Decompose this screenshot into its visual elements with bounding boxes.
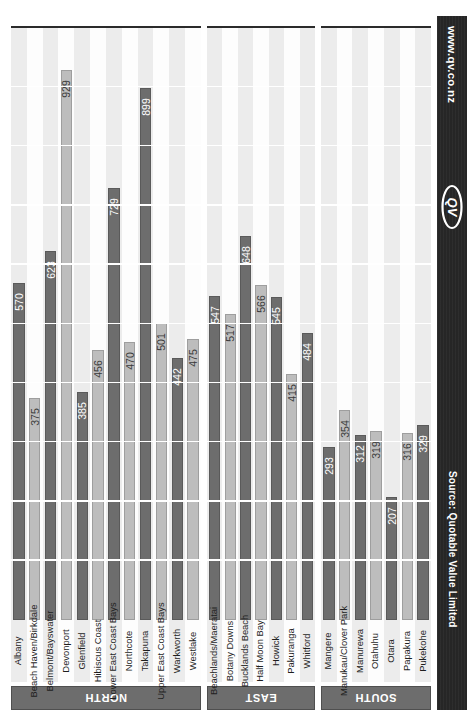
category-label-cell: Lower East Coast Bays bbox=[106, 620, 122, 682]
category-labels-north: AlbanyBeach Haven/BirkdaleBelmont/Bayswa… bbox=[11, 620, 201, 682]
bar[interactable]: 319 bbox=[370, 431, 381, 620]
category-label-cell: Botany Downs bbox=[222, 620, 237, 682]
bar-cell[interactable]: 415 bbox=[284, 28, 299, 620]
category-label: Manurewa bbox=[355, 629, 365, 673]
bar[interactable]: 729 bbox=[108, 188, 119, 620]
bar-value-label: 623 bbox=[45, 261, 57, 279]
category-label-cell: Papakura bbox=[400, 620, 416, 682]
bar-cell[interactable]: 517 bbox=[222, 28, 237, 620]
bar-cell[interactable]: 375 bbox=[27, 28, 43, 620]
category-label: Beachlands/Maeratai bbox=[209, 607, 219, 695]
chart-panel-east: 547517648566545415484 Beachlands/Maerata… bbox=[207, 26, 315, 710]
chart-panel-south: 293354312319207316329 MangereManukau/Clo… bbox=[321, 26, 431, 710]
bar-cell[interactable]: 484 bbox=[300, 28, 315, 620]
bar[interactable]: 442 bbox=[172, 358, 183, 620]
bar-value-label: 648 bbox=[240, 247, 252, 265]
bar-value-label: 293 bbox=[323, 457, 335, 475]
bar[interactable]: 470 bbox=[124, 342, 135, 620]
bar-cell[interactable]: 545 bbox=[269, 28, 284, 620]
bar-cell[interactable]: 316 bbox=[400, 28, 416, 620]
bar-cell[interactable]: 623 bbox=[43, 28, 59, 620]
category-label-cell: Warkworth bbox=[169, 620, 185, 682]
bar[interactable]: 415 bbox=[286, 374, 297, 620]
bar-cell[interactable]: 385 bbox=[74, 28, 90, 620]
category-label: Albany bbox=[13, 637, 23, 666]
bar-cell[interactable]: 547 bbox=[207, 28, 222, 620]
bar-cell[interactable]: 566 bbox=[253, 28, 268, 620]
bar-cell[interactable]: 329 bbox=[415, 28, 431, 620]
category-label: Bucklands Beach bbox=[240, 615, 250, 687]
bar-cell[interactable]: 442 bbox=[169, 28, 185, 620]
bar[interactable]: 329 bbox=[417, 425, 428, 620]
bar[interactable]: 375 bbox=[29, 398, 40, 620]
category-label-cell: Half Moon Bay bbox=[253, 620, 268, 682]
bar[interactable]: 316 bbox=[402, 433, 413, 620]
category-labels-south: MangereManukau/Clover ParkManurewaOtahuh… bbox=[321, 620, 431, 682]
bars-east: 547517648566545415484 bbox=[207, 28, 315, 620]
bar-value-label: 329 bbox=[417, 435, 429, 453]
bar-value-label: 475 bbox=[187, 349, 199, 367]
bar-cell[interactable]: 354 bbox=[337, 28, 353, 620]
bar[interactable]: 545 bbox=[271, 297, 282, 620]
category-label: Lower East Coast Bays bbox=[108, 602, 118, 699]
plot-area-east: 547517648566545415484 bbox=[207, 26, 315, 620]
bar-cell[interactable]: 501 bbox=[153, 28, 169, 620]
bar[interactable]: 899 bbox=[140, 88, 151, 620]
bar[interactable]: 354 bbox=[339, 410, 350, 620]
category-label: Papakura bbox=[402, 631, 412, 671]
bar-cell[interactable]: 729 bbox=[106, 28, 122, 620]
bar[interactable]: 566 bbox=[255, 285, 266, 620]
bar[interactable]: 207 bbox=[386, 497, 397, 620]
bar[interactable]: 623 bbox=[45, 251, 56, 620]
bar[interactable]: 385 bbox=[77, 392, 88, 620]
region-band-north: NORTH bbox=[11, 686, 201, 710]
category-label: Westlake bbox=[188, 632, 198, 670]
bar-cell[interactable]: 470 bbox=[122, 28, 138, 620]
bar-cell[interactable]: 207 bbox=[384, 28, 400, 620]
bar-cell[interactable]: 319 bbox=[368, 28, 384, 620]
category-label-cell: Manukau/Clover Park bbox=[337, 620, 353, 682]
bar[interactable]: 648 bbox=[240, 236, 251, 620]
category-label-cell: Belmont/Bayswater bbox=[43, 620, 59, 682]
bar-cell[interactable]: 899 bbox=[138, 28, 154, 620]
website-url[interactable]: www.qv.co.nz bbox=[446, 26, 458, 103]
bar[interactable]: 456 bbox=[92, 350, 103, 620]
bar[interactable]: 484 bbox=[302, 333, 313, 620]
qv-branding-banner: www.qv.co.nz QV Source: Quotable Value L… bbox=[437, 16, 467, 710]
bar-cell[interactable]: 929 bbox=[58, 28, 74, 620]
bar-cell[interactable]: 570 bbox=[11, 28, 27, 620]
category-label: Warkworth bbox=[172, 629, 182, 673]
bar[interactable]: 547 bbox=[209, 296, 220, 620]
category-label: Northcote bbox=[124, 631, 134, 672]
bar-value-label: 501 bbox=[155, 334, 167, 352]
bar[interactable]: 929 bbox=[61, 70, 72, 620]
bar-value-label: 375 bbox=[29, 408, 41, 426]
bar[interactable]: 312 bbox=[355, 435, 366, 620]
bar[interactable]: 475 bbox=[187, 339, 198, 620]
bar-cell[interactable]: 293 bbox=[321, 28, 337, 620]
category-label: Mangere bbox=[323, 632, 333, 669]
category-label: Beach Haven/Birkdale bbox=[29, 605, 39, 698]
category-label: Pukekohe bbox=[418, 630, 428, 672]
category-label-cell: Bucklands Beach bbox=[238, 620, 253, 682]
category-label: Half Moon Bay bbox=[255, 620, 265, 682]
bar[interactable]: 517 bbox=[225, 314, 236, 620]
bar-cell[interactable]: 648 bbox=[238, 28, 253, 620]
category-label: Botany Downs bbox=[225, 621, 235, 681]
bar-cell[interactable]: 456 bbox=[90, 28, 106, 620]
bars-north: 570375623929385456729470899501442475 bbox=[11, 28, 201, 620]
source-credit: Source: Quotable Value Limited bbox=[447, 471, 458, 628]
bar[interactable]: 501 bbox=[156, 323, 167, 620]
qv-logo-icon: QV bbox=[440, 184, 464, 230]
bar[interactable]: 570 bbox=[13, 283, 24, 620]
bar-value-label: 545 bbox=[270, 308, 282, 326]
bar-cell[interactable]: 475 bbox=[185, 28, 201, 620]
category-label-cell: Manurewa bbox=[352, 620, 368, 682]
category-label-cell: Glenfield bbox=[74, 620, 90, 682]
category-label: Hibiscus Coast bbox=[93, 620, 103, 683]
bar-cell[interactable]: 312 bbox=[352, 28, 368, 620]
category-label-cell: Mangere bbox=[321, 620, 337, 682]
bar[interactable]: 293 bbox=[323, 447, 334, 620]
category-label: Belmont/Bayswater bbox=[45, 611, 55, 692]
category-label-cell: Upper East Coast Bays bbox=[153, 620, 169, 682]
